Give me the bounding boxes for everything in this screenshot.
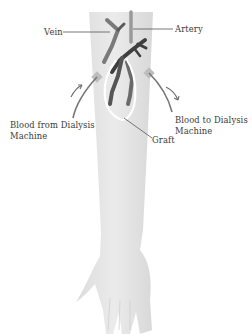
arrow-in-icon xyxy=(71,85,82,97)
label-blood-to-machine: Blood to Dialysis Machine xyxy=(175,115,252,136)
label-artery: Artery xyxy=(175,24,203,35)
diagram-illustration xyxy=(0,0,252,335)
tube-to-machine xyxy=(149,73,172,112)
label-vein: Vein xyxy=(44,27,63,38)
label-graft: Graft xyxy=(152,135,175,146)
arm-graft-diagram: Vein Artery Blood from Dialysis Machine … xyxy=(0,0,252,335)
label-blood-from-machine: Blood from Dialysis Machine xyxy=(10,120,100,141)
